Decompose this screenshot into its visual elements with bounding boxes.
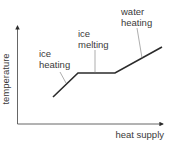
y-axis-label: temperature — [0, 53, 11, 104]
heating-curve — [53, 47, 162, 97]
ice-heating-leader — [60, 72, 66, 83]
ice-melting-label-line2: melting — [78, 39, 109, 50]
ice-melting-label-line1: ice — [78, 28, 90, 39]
ice-heating-label-line1: ice — [39, 48, 51, 59]
heating-curve-diagram: temperature heat supply ice heating ice … — [0, 0, 176, 144]
water-heating-label-line1: water — [120, 6, 144, 17]
water-heating-label-line2: heating — [121, 17, 152, 28]
ice-heating-label-line2: heating — [39, 59, 70, 70]
x-axis-label: heat supply — [115, 129, 164, 140]
water-heating-leader — [137, 28, 142, 58]
